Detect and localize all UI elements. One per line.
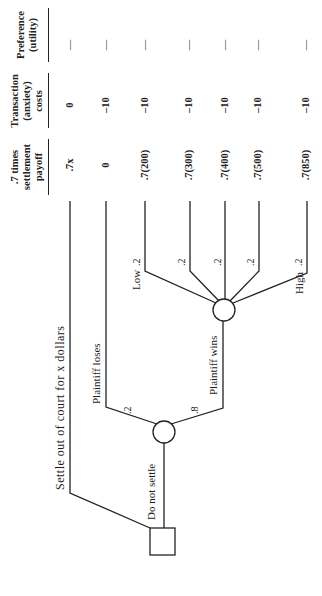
row-6-cost: –10	[253, 80, 264, 130]
row-1-payoff: .7x	[65, 140, 76, 190]
row-2-payoff: 0	[101, 140, 112, 190]
settle-branch-line	[70, 201, 150, 528]
prob-award-1: .2	[132, 259, 142, 267]
prob-award-2: .2	[177, 259, 187, 267]
low-label: Low	[131, 270, 142, 290]
header-underline-costs	[48, 73, 49, 128]
header-preference-utility: Preference (utility)	[15, 6, 39, 64]
row-4-payoff: .7(300)	[184, 140, 195, 190]
settle-label: Settle out of court for x dollars	[54, 326, 66, 490]
header-underline-utility	[48, 8, 49, 62]
row-4-utility: —	[184, 20, 195, 70]
row-5-payoff: .7(400)	[220, 140, 231, 190]
plaintiff-wins-label: Plaintiff wins	[208, 336, 219, 395]
header-underline-payoff	[48, 139, 49, 195]
award-branch-4	[230, 201, 259, 301]
plaintiff-loses-label: Plaintiff loses	[91, 343, 102, 404]
row-3-utility: —	[140, 20, 151, 70]
row-6-utility: —	[253, 20, 264, 70]
prob-award-3: .2	[213, 259, 223, 267]
row-3-cost: –10	[140, 80, 151, 130]
decision-tree-diagram: Settle out of court for x dollars Do not…	[0, 0, 322, 596]
row-2-cost: –10	[101, 80, 112, 130]
prob-award-4: .2	[246, 259, 256, 267]
row-1-cost: 0	[65, 80, 76, 130]
row-5-utility: —	[220, 20, 231, 70]
row-7-payoff: .7(850)	[301, 140, 312, 190]
plaintiff-loses-line	[106, 201, 157, 424]
decision-node-square	[150, 528, 175, 555]
header-settlement-payoff: .7 times settlement payoff	[9, 139, 45, 195]
row-2-utility: —	[101, 20, 112, 70]
row-6-payoff: .7(500)	[253, 140, 264, 190]
row-1-utility: —	[65, 20, 76, 70]
prob-loses: .2	[123, 407, 133, 415]
award-chance-node-circle	[213, 299, 235, 321]
row-7-utility: —	[301, 20, 312, 70]
award-branch-2	[190, 201, 219, 301]
row-4-cost: –10	[184, 80, 195, 130]
header-transaction-costs: Transaction (anxiety) costs	[9, 72, 45, 130]
row-5-cost: –10	[220, 80, 231, 130]
row-7-cost: –10	[301, 80, 312, 130]
do-not-settle-label: Do not settle	[146, 464, 157, 520]
prob-wins: .8	[190, 407, 200, 415]
prob-award-5: .2	[294, 259, 304, 267]
row-3-payoff: .7(200)	[140, 140, 151, 190]
high-label: High	[294, 272, 305, 294]
